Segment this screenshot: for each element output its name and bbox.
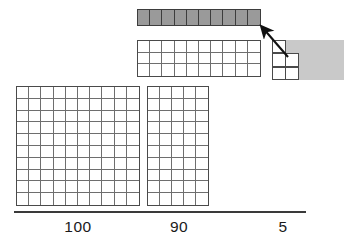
unit-cell [148,158,160,170]
thirty-grid-block [137,40,261,77]
unit-cell [160,170,172,182]
unit-cell [78,158,90,170]
unit-cell [196,122,208,134]
unit-cell [78,122,90,134]
ten-strip-block [137,9,261,26]
unit-cell [17,111,29,123]
unit-cell [162,10,174,25]
unit-cell [115,170,127,182]
unit-cell [102,158,114,170]
unit-cell [90,111,102,123]
unit-cell [196,134,208,146]
unit-cell [66,99,78,111]
unit-cell [172,87,184,99]
unit-cell [196,111,208,123]
unit-cell [66,87,78,99]
unit-cell [148,122,160,134]
unit-cell [90,193,102,205]
unit-cell [54,111,66,123]
unit-cell [196,170,208,182]
unit-cell [138,10,150,25]
unit-cell [115,158,127,170]
unit-cell [102,146,114,158]
unit-cell [115,111,127,123]
unit-cell [66,111,78,123]
unit-cell [184,99,196,111]
unit-cell [160,158,172,170]
unit-cell [127,193,139,205]
unit-cell [17,99,29,111]
unit-cell [172,158,184,170]
unit-cell [196,87,208,99]
unit-cell [172,99,184,111]
unit-cell [127,99,139,111]
unit-cell [29,146,41,158]
figure-canvas: 100 90 5 [0,0,346,249]
unit-cell [196,193,208,205]
unit-cell [54,99,66,111]
unit-cell [41,193,53,205]
unit-cell [102,193,114,205]
unit-cell [285,67,299,80]
unit-cell [148,146,160,158]
unit-cell [187,53,199,65]
unit-cell [150,41,162,53]
unit-cell [66,158,78,170]
unit-cell [223,41,235,53]
unit-cell [102,87,114,99]
unit-cell [29,87,41,99]
unit-cell [211,64,223,76]
unit-cell [115,193,127,205]
unit-cell [127,158,139,170]
unit-cell [78,134,90,146]
unit-cell [148,87,160,99]
unit-cell [272,67,286,80]
unit-cell [223,64,235,76]
ninety-grid-block [147,86,209,206]
unit-cell [160,122,172,134]
unit-cell [41,146,53,158]
unit-cell [172,122,184,134]
unit-cell [127,181,139,193]
unit-cell [160,181,172,193]
unit-cell [148,99,160,111]
unit-cell [127,122,139,134]
unit-cell [175,41,187,53]
unit-cell [196,146,208,158]
hundred-grid-block [16,86,140,206]
unit-cell [248,64,260,76]
unit-cell [78,111,90,123]
unit-cell [187,41,199,53]
unit-cell [78,87,90,99]
unit-cell [78,146,90,158]
unit-cell [196,99,208,111]
unit-cell [41,170,53,182]
unit-cell [17,87,29,99]
unit-cell [17,122,29,134]
unit-cell [172,170,184,182]
unit-cell [54,170,66,182]
unit-cell [211,53,223,65]
unit-cell [66,193,78,205]
unit-cell [78,181,90,193]
unit-cell [236,64,248,76]
baseline-rule [14,211,306,213]
unit-cell [29,111,41,123]
unit-cell [150,10,162,25]
unit-cell [115,146,127,158]
unit-cell [127,134,139,146]
unit-cell [138,64,150,76]
unit-cell [66,170,78,182]
unit-cell [148,193,160,205]
unit-cell [148,134,160,146]
unit-cell [172,181,184,193]
unit-cell [187,10,199,25]
unit-cell [66,134,78,146]
unit-cell [29,170,41,182]
unit-cell [78,99,90,111]
unit-cell [54,193,66,205]
unit-cell [29,158,41,170]
unit-cell [175,64,187,76]
unit-cell [90,146,102,158]
unit-cell [150,64,162,76]
